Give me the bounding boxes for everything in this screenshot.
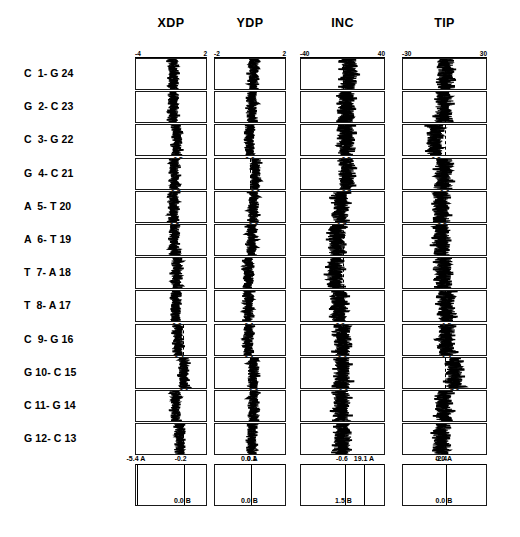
zero-reference-line	[343, 159, 344, 189]
zero-reference-line	[183, 325, 184, 355]
panel-xdp-bp9	[135, 324, 207, 356]
axis-min-label-ydp: -2	[214, 50, 220, 57]
axis-range-inc: -4040	[300, 45, 385, 57]
zero-reference-line	[445, 358, 446, 388]
panel-inc-bp9	[300, 324, 385, 356]
panel-ydp-bp12	[214, 423, 286, 455]
zero-reference-line	[445, 291, 446, 321]
trace-ydp-bp3	[215, 125, 285, 155]
zero-reference-line	[343, 358, 344, 388]
panel-tip-bp1	[402, 58, 487, 90]
trace-ydp-bp8	[215, 291, 285, 321]
panel-ydp-bp2	[214, 91, 286, 123]
panel-ydp-bp9	[214, 324, 286, 356]
zero-reference-line	[343, 258, 344, 288]
zero-reference-line	[343, 424, 344, 454]
trace-xdp-bp11	[136, 391, 206, 421]
trace-xdp-bp8	[136, 291, 206, 321]
panel-tip-bp4	[402, 158, 487, 190]
sequence-label-bp1: C 1- G 24	[24, 67, 128, 79]
footer-label-b-ydp: 0.0 B	[241, 497, 258, 504]
panel-tip-bp6	[402, 224, 487, 256]
zero-reference-line	[445, 391, 446, 421]
axis-max-label-tip: 30	[480, 50, 487, 57]
zero-reference-line	[343, 59, 344, 89]
footer-marker-a	[364, 464, 365, 505]
sequence-label-bp8: T 8- A 17	[24, 299, 128, 311]
trace-xdp-bp10	[136, 358, 206, 388]
zero-reference-line	[250, 391, 251, 421]
trace-ydp-bp2	[215, 92, 285, 122]
trace-xdp-bp9	[136, 325, 206, 355]
figure-canvas: XDPYDPINCTIP-42-22-4040-3030C 1- G 24G 2…	[0, 0, 520, 537]
trace-xdp-bp6	[136, 225, 206, 255]
zero-reference-line	[343, 192, 344, 222]
axis-range-tip: -3030	[402, 45, 487, 57]
panel-inc-bp5	[300, 191, 385, 223]
zero-reference-line	[250, 159, 251, 189]
panel-tip-bp3	[402, 124, 487, 156]
trace-xdp-bp3	[136, 125, 206, 155]
panel-ydp-bp1	[214, 58, 286, 90]
panel-inc-bp6	[300, 224, 385, 256]
panel-tip-bp2	[402, 91, 487, 123]
column-header-tip: TIP	[410, 16, 480, 30]
sequence-label-bp10: G 10- C 15	[24, 366, 128, 378]
mean-value-xdp-bp12: -0.2	[166, 455, 196, 462]
panel-xdp-bp6	[135, 224, 207, 256]
zero-reference-line	[445, 125, 446, 155]
zero-reference-line	[445, 424, 446, 454]
zero-reference-line	[343, 291, 344, 321]
footer-label-b-tip: 0.0 B	[436, 497, 453, 504]
panel-xdp-bp4	[135, 158, 207, 190]
panel-ydp-bp8	[214, 290, 286, 322]
zero-reference-line	[445, 258, 446, 288]
panel-ydp-bp7	[214, 257, 286, 289]
panel-inc-bp8	[300, 290, 385, 322]
trace-xdp-bp5	[136, 192, 206, 222]
axis-min-label-inc: -40	[300, 50, 309, 57]
footer-label-b-inc: 1.5 B	[335, 497, 352, 504]
panel-xdp-bp5	[135, 191, 207, 223]
trace-xdp-bp12	[136, 424, 206, 454]
zero-reference-line	[250, 59, 251, 89]
footer-panel-xdp	[135, 464, 207, 506]
panel-xdp-bp8	[135, 290, 207, 322]
zero-reference-line	[445, 92, 446, 122]
sequence-label-bp3: C 3- G 22	[24, 133, 128, 145]
zero-reference-line	[343, 325, 344, 355]
panel-tip-bp9	[402, 324, 487, 356]
zero-reference-line	[445, 225, 446, 255]
column-header-inc: INC	[308, 16, 378, 30]
footer-label-a-inc: 19.1 A	[354, 455, 374, 462]
panel-ydp-bp11	[214, 390, 286, 422]
footer-label-b-xdp: 0.0 B	[174, 497, 191, 504]
zero-reference-line	[183, 424, 184, 454]
trace-xdp-bp1	[136, 59, 206, 89]
footer-marker-a	[137, 464, 138, 505]
trace-xdp-bp4	[136, 159, 206, 189]
zero-reference-line	[183, 358, 184, 388]
trace-ydp-bp12	[215, 424, 285, 454]
mean-value-inc-bp12: -0.6	[327, 455, 357, 462]
trace-ydp-bp6	[215, 225, 285, 255]
footer-top-rule	[403, 464, 486, 465]
zero-reference-line	[250, 358, 251, 388]
sequence-label-bp2: G 2- C 23	[24, 100, 128, 112]
panel-tip-bp8	[402, 290, 487, 322]
axis-range-ydp: -22	[214, 45, 286, 57]
footer-label-a-tip: 0.0 A	[436, 455, 452, 462]
footer-label-a-ydp: 0.0 A	[241, 455, 257, 462]
panel-ydp-bp10	[214, 357, 286, 389]
footer-label-a-xdp: -5.4 A	[127, 455, 146, 462]
trace-xdp-bp2	[136, 92, 206, 122]
panel-xdp-bp3	[135, 124, 207, 156]
panel-inc-bp4	[300, 158, 385, 190]
panel-inc-bp11	[300, 390, 385, 422]
panel-inc-bp10	[300, 357, 385, 389]
zero-reference-line	[343, 125, 344, 155]
zero-reference-line	[250, 192, 251, 222]
panel-xdp-bp12	[135, 423, 207, 455]
sequence-label-bp9: C 9- G 16	[24, 333, 128, 345]
panel-xdp-bp1	[135, 58, 207, 90]
